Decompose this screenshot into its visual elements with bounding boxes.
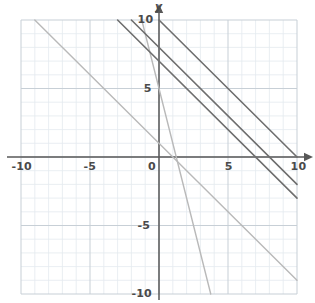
x-tick-5: 5 xyxy=(225,160,233,173)
x-tick--5: -5 xyxy=(84,160,97,173)
coordinate-plane xyxy=(0,0,315,303)
graph-screenshot: -10-50510-10-5510y xyxy=(0,0,315,303)
y-tick-10: 10 xyxy=(138,13,154,26)
y-axis-name: y xyxy=(155,0,162,13)
y-tick-5: 5 xyxy=(144,82,152,95)
origin-label: 0 xyxy=(148,160,156,173)
x-tick--10: -10 xyxy=(11,160,31,173)
line-3 xyxy=(118,20,297,198)
line-1 xyxy=(35,20,297,280)
y-tick--10: -10 xyxy=(131,287,151,300)
x-tick-10: 10 xyxy=(291,160,307,173)
y-tick--5: -5 xyxy=(138,219,151,232)
